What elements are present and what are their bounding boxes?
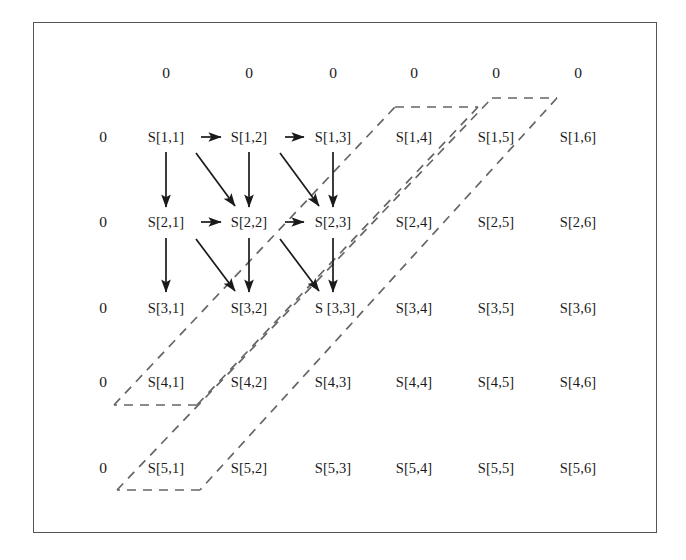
top-zero-col-1: 0 (162, 64, 170, 82)
cell-5-3: S[5,3] (315, 460, 351, 477)
top-zero-col-3: 0 (329, 64, 337, 82)
cell-4-4: S[4,4] (396, 374, 432, 391)
cell-2-6: S[2,6] (560, 214, 596, 231)
cell-1-2: S[1,2] (231, 129, 267, 146)
left-zero-row-2: 0 (99, 213, 107, 231)
left-zero-row-5: 0 (99, 459, 107, 477)
cell-4-1: S[4,1] (148, 374, 184, 391)
cell-3-1: S[3,1] (148, 300, 184, 317)
wavefront-band-1 (114, 107, 478, 405)
cell-5-4: S[5,4] (396, 460, 432, 477)
wavefront-band-2 (117, 98, 557, 490)
top-zero-col-6: 0 (574, 64, 582, 82)
cell-1-6: S[1,6] (560, 129, 596, 146)
arrow-d-r2c1 (196, 239, 235, 291)
cell-3-2: S[3,2] (231, 300, 267, 317)
cell-1-4: S[1,4] (396, 129, 432, 146)
cell-4-3: S[4,3] (315, 374, 351, 391)
cell-3-3: S [3,3] (315, 300, 355, 317)
arrow-d-r1c2 (280, 153, 319, 206)
top-zero-col-2: 0 (245, 64, 253, 82)
cell-4-6: S[4,6] (560, 374, 596, 391)
left-zero-row-1: 0 (99, 128, 107, 146)
left-zero-row-3: 0 (99, 299, 107, 317)
cell-1-3: S[1,3] (315, 129, 351, 146)
top-zero-col-4: 0 (410, 64, 418, 82)
cell-2-5: S[2,5] (478, 214, 514, 231)
cell-4-5: S[4,5] (478, 374, 514, 391)
cell-5-5: S[5,5] (478, 460, 514, 477)
cell-4-2: S[4,2] (231, 374, 267, 391)
cell-3-6: S[3,6] (560, 300, 596, 317)
cell-2-3: S[2,3] (315, 214, 351, 231)
cell-5-6: S[5,6] (560, 460, 596, 477)
cell-2-4: S[2,4] (396, 214, 432, 231)
figure-container: 0 0 0 0 0 0 0 0 0 0 0 S[1,1] S[1,2] S[1,… (0, 0, 686, 560)
left-zero-row-4: 0 (99, 373, 107, 391)
arrow-d-r2c2 (280, 239, 319, 291)
cell-5-2: S[5,2] (231, 460, 267, 477)
cell-1-5: S[1,5] (478, 129, 514, 146)
top-zero-col-5: 0 (492, 64, 500, 82)
cell-1-1: S[1,1] (148, 129, 184, 146)
cell-3-5: S[3,5] (478, 300, 514, 317)
cell-2-1: S[2,1] (148, 214, 184, 231)
cell-3-4: S[3,4] (396, 300, 432, 317)
cell-5-1: S[5,1] (148, 460, 184, 477)
cell-2-2: S[2,2] (231, 214, 267, 231)
arrow-d-r1c1 (196, 153, 235, 206)
